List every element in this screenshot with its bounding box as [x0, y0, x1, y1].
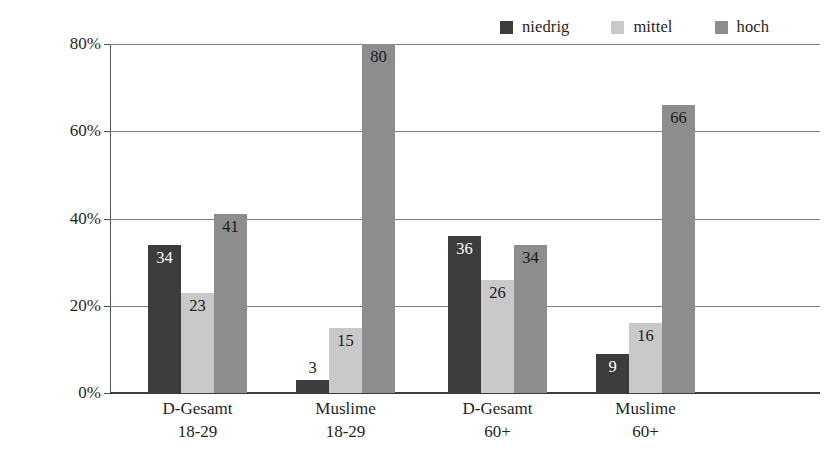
bar-value-label: 23	[181, 298, 214, 315]
bar-value-label: 80	[362, 49, 395, 66]
x-category-label-line2: 18-29	[266, 421, 426, 444]
legend-swatch-hoch	[715, 21, 728, 34]
x-category-label-line1: Muslime	[615, 399, 675, 418]
y-tick-label: 20%	[70, 296, 101, 316]
plot-area: 3423413158036263491666	[110, 44, 820, 393]
bar: 34	[514, 245, 547, 393]
bar-value-label: 36	[448, 241, 481, 258]
y-tick-label: 80%	[70, 34, 101, 54]
bar-chart: niedrig mittel hoch 0%20%40%60%80% 34234…	[0, 0, 840, 462]
y-tick-label: 40%	[70, 209, 101, 229]
bar-value-label: 34	[148, 250, 181, 267]
y-tick-label: 0%	[78, 383, 101, 403]
bar: 9	[596, 354, 629, 393]
x-category-label: D-Gesamt18-29	[118, 398, 278, 444]
x-category-label-line2: 18-29	[118, 421, 278, 444]
x-axis-category-labels: D-Gesamt18-29Muslime18-29D-Gesamt60+Musl…	[110, 398, 820, 458]
chart-legend: niedrig mittel hoch	[500, 16, 830, 38]
bar-value-label: 34	[514, 250, 547, 267]
bar-value-label: 26	[481, 285, 514, 302]
bar: 36	[448, 236, 481, 393]
bar: 66	[662, 105, 695, 393]
bar: 80	[362, 44, 395, 393]
bar-value-label: 41	[214, 219, 247, 236]
bar-value-label: 3	[296, 360, 329, 377]
x-category-label: Muslime60+	[566, 398, 726, 444]
x-category-label-line2: 60+	[418, 421, 578, 444]
x-category-label-line1: D-Gesamt	[463, 399, 533, 418]
legend-item-niedrig: niedrig	[500, 17, 569, 37]
bar-value-label: 9	[596, 359, 629, 376]
y-tick-label: 60%	[70, 121, 101, 141]
bar: 34	[148, 245, 181, 393]
x-category-label-line2: 60+	[566, 421, 726, 444]
legend-item-hoch: hoch	[715, 17, 769, 37]
bar: 23	[181, 293, 214, 393]
legend-swatch-mittel	[611, 21, 624, 34]
bar: 41	[214, 214, 247, 393]
x-category-label: Muslime18-29	[266, 398, 426, 444]
legend-swatch-niedrig	[500, 21, 513, 34]
x-category-label-line1: Muslime	[315, 399, 375, 418]
bar: 15	[329, 328, 362, 393]
bar-value-label: 16	[629, 328, 662, 345]
x-category-label: D-Gesamt60+	[418, 398, 578, 444]
legend-label-niedrig: niedrig	[522, 17, 569, 37]
bar: 3	[296, 380, 329, 393]
bars-layer: 3423413158036263491666	[110, 44, 820, 393]
x-category-label-line1: D-Gesamt	[163, 399, 233, 418]
bar-value-label: 15	[329, 333, 362, 350]
legend-label-mittel: mittel	[633, 17, 672, 37]
legend-label-hoch: hoch	[737, 17, 769, 37]
legend-item-mittel: mittel	[611, 17, 672, 37]
bar: 26	[481, 280, 514, 393]
bar: 16	[629, 323, 662, 393]
bar-value-label: 66	[662, 110, 695, 127]
y-tick	[104, 393, 110, 394]
